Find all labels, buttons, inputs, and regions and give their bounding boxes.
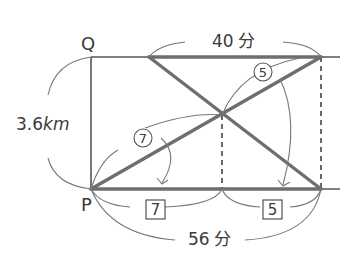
ratio-box-right-brace-a bbox=[222, 189, 260, 207]
distance-brace-lower bbox=[48, 158, 91, 189]
ratio-circle-right-label: 5 bbox=[259, 65, 267, 80]
travel-diagram: Q P 3.6km 40分 56分 7 5 7 5 bbox=[0, 0, 363, 264]
distance-brace-upper bbox=[48, 57, 91, 95]
top-time-unit: 分 bbox=[238, 31, 255, 51]
top-time-value: 40 bbox=[212, 31, 234, 51]
top-time-brace-left bbox=[149, 42, 185, 57]
bottom-time-label: 56分 bbox=[188, 229, 231, 249]
top-time-label: 40分 bbox=[212, 31, 255, 51]
point-p-label: P bbox=[81, 194, 92, 215]
ratio-box-left-brace-a bbox=[91, 189, 130, 207]
ratio-box-right-label: 5 bbox=[268, 201, 278, 219]
ratio-box-left-label: 7 bbox=[151, 201, 161, 219]
ratio-box-left-brace-b bbox=[165, 189, 222, 207]
bottom-time-unit: 分 bbox=[214, 229, 231, 249]
bottom-time-value: 56 bbox=[188, 229, 210, 249]
bottom-time-brace-right bbox=[245, 189, 321, 240]
q-to-p-travel-line bbox=[149, 57, 321, 189]
point-q-label: Q bbox=[81, 33, 95, 54]
arrow-seven-head bbox=[157, 178, 168, 184]
distance-label: 3.6km bbox=[16, 114, 69, 134]
distance-unit: km bbox=[43, 114, 69, 134]
distance-value: 3.6 bbox=[16, 114, 43, 134]
ratio-circle-left-label: 7 bbox=[139, 131, 147, 146]
arrow-five-curve bbox=[280, 79, 291, 185]
top-time-brace-right bbox=[283, 42, 321, 57]
